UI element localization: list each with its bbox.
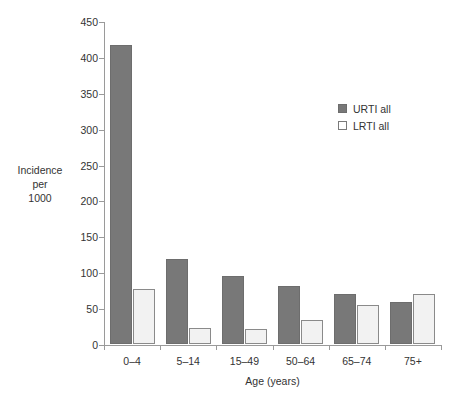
x-axis-tick <box>273 345 274 350</box>
x-axis-tick-label: 65–74 <box>327 355 387 367</box>
x-axis-tick <box>104 345 105 350</box>
y-axis-tick-label: 50 <box>64 303 98 315</box>
y-axis-tick <box>99 22 104 23</box>
x-axis-tick <box>329 345 330 350</box>
x-axis-tick <box>441 345 442 350</box>
y-axis-tick <box>99 201 104 202</box>
y-axis-tick-label: 350 <box>64 88 98 100</box>
y-axis-tick-label: 150 <box>64 231 98 243</box>
y-axis-tick <box>99 94 104 95</box>
x-axis-tick <box>160 345 161 350</box>
y-axis-tick-label: 450 <box>64 16 98 28</box>
bar-urti <box>166 259 188 344</box>
bar-lrti <box>301 320 323 344</box>
x-axis-tick <box>385 345 386 350</box>
bar-chart: Incidence per 1000 050100150200250300350… <box>0 0 474 413</box>
x-axis-tick-label: 75+ <box>383 355 443 367</box>
y-axis-tick-label: 400 <box>64 52 98 64</box>
y-axis-tick-label: 0 <box>64 339 98 351</box>
x-axis-tick-label: 5–14 <box>158 355 218 367</box>
legend-swatch-urti <box>338 104 347 113</box>
legend-label: LRTI all <box>353 120 389 132</box>
y-axis-tick <box>99 237 104 238</box>
legend-item: LRTI all <box>338 117 391 134</box>
y-axis-line <box>104 22 105 345</box>
bar-lrti <box>133 289 155 344</box>
legend-label: URTI all <box>353 103 391 115</box>
bar-urti <box>110 45 132 344</box>
chart-legend: URTI allLRTI all <box>338 100 391 134</box>
legend-item: URTI all <box>338 100 391 117</box>
bar-urti <box>390 302 412 344</box>
y-axis-tick <box>99 273 104 274</box>
bar-urti <box>222 276 244 344</box>
y-axis-tick <box>99 166 104 167</box>
bar-lrti <box>245 329 267 344</box>
plot-area: 0–45–1415–4950–6465–7475+ <box>104 22 441 345</box>
legend-swatch-lrti <box>338 121 347 130</box>
y-axis-tick-label: 300 <box>64 124 98 136</box>
bar-lrti <box>189 328 211 345</box>
y-axis-tick-label: 250 <box>64 160 98 172</box>
x-axis-tick-label: 0–4 <box>102 355 162 367</box>
x-axis-tick-label: 50–64 <box>271 355 331 367</box>
bar-urti <box>334 294 356 344</box>
y-axis-tick-label: 200 <box>64 195 98 207</box>
bar-urti <box>278 286 300 344</box>
y-axis-tick <box>99 309 104 310</box>
y-axis-tick <box>99 130 104 131</box>
bar-lrti <box>357 305 379 344</box>
x-axis-tick-label: 15–49 <box>214 355 274 367</box>
x-axis-tick <box>216 345 217 350</box>
y-axis-tick <box>99 58 104 59</box>
y-axis-tick-label: 100 <box>64 267 98 279</box>
bar-lrti <box>413 294 435 344</box>
x-axis-title: Age (years) <box>104 375 441 387</box>
